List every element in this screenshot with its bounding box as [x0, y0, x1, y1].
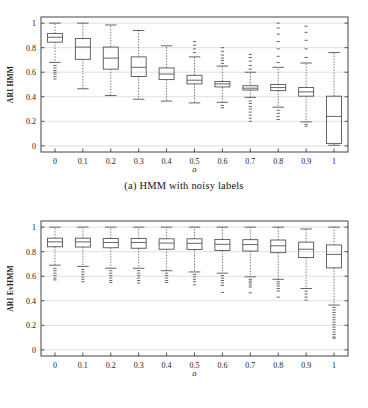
xtick-label: 0.9 [301, 157, 311, 166]
chart-hmm-svg: 00.20.40.60.8100.10.20.30.40.50.60.70.80… [0, 0, 368, 172]
ytick-label: 0.4 [26, 297, 36, 306]
boxplot-item [131, 31, 146, 100]
boxplot-item [215, 227, 230, 292]
xtick-label: 0.7 [245, 361, 255, 370]
box-iqr [75, 38, 90, 59]
plot-evhmm: 00.20.40.60.8100.10.20.30.40.50.60.70.80… [0, 204, 368, 376]
boxplot-item [159, 227, 174, 282]
plot-group: 00.20.40.60.8100.10.20.30.40.50.60.70.80… [6, 221, 348, 376]
xtick-label: 0.8 [273, 361, 283, 370]
box-iqr [131, 238, 146, 248]
caption-hmm: (a) HMM with noisy labels [0, 180, 368, 191]
plot-hmm: 00.20.40.60.8100.10.20.30.40.50.60.70.80… [0, 0, 368, 172]
ytick-label: 0.6 [26, 68, 36, 77]
xaxis-label: ρ [191, 368, 197, 376]
box-iqr [243, 240, 258, 251]
xtick-label: 0.3 [134, 361, 144, 370]
ytick-label: 0 [32, 346, 36, 355]
boxplot-item [47, 227, 62, 280]
box-iqr [187, 239, 202, 250]
boxplot-item [215, 48, 230, 108]
xtick-label: 0.2 [106, 361, 116, 370]
xtick-label: 0.7 [245, 157, 255, 166]
boxplot-item [131, 227, 146, 283]
subfigure-evhmm: 00.20.40.60.8100.10.20.30.40.50.60.70.80… [0, 204, 368, 408]
xtick-label: 0.1 [78, 157, 88, 166]
ytick-label: 0.2 [26, 321, 36, 330]
xtick-label: 0.6 [217, 361, 227, 370]
xtick-label: 0.2 [106, 157, 116, 166]
boxplot-item [299, 26, 314, 126]
ytick-label: 0.2 [26, 117, 36, 126]
ytick-label: 0.4 [26, 93, 36, 102]
box-iqr [47, 238, 62, 247]
xtick-label: 1 [332, 157, 336, 166]
box-iqr [187, 75, 202, 84]
boxplot-item [243, 227, 258, 293]
boxplot-item [103, 227, 118, 282]
boxplot-item [75, 227, 90, 282]
boxplot-item [271, 227, 286, 297]
boxplot-item [47, 23, 62, 79]
ytick-label: 0.8 [26, 248, 36, 257]
boxplot-item [75, 23, 90, 89]
boxplot-item [327, 227, 342, 338]
figure-boxplots: 00.20.40.60.8100.10.20.30.40.50.60.70.80… [0, 0, 368, 408]
boxplot-item [159, 46, 174, 101]
xtick-label: 0.9 [301, 361, 311, 370]
ytick-label: 0.8 [26, 44, 36, 53]
box-iqr [75, 238, 90, 247]
box-iqr [47, 34, 62, 43]
plot-group: 00.20.40.60.8100.10.20.30.40.50.60.70.80… [6, 17, 348, 172]
yaxis-label: ARI HMM [6, 66, 15, 103]
ytick-label: 0 [32, 142, 36, 151]
xtick-label: 0.1 [78, 361, 88, 370]
xtick-label: 0.4 [162, 157, 172, 166]
ytick-label: 1 [32, 223, 36, 232]
boxplot-item [327, 53, 342, 146]
xtick-label: 0 [53, 157, 57, 166]
boxplot-item [103, 25, 118, 96]
boxplot-item [243, 54, 258, 121]
xtick-label: 1 [332, 361, 336, 370]
subfigure-hmm: 00.20.40.60.8100.10.20.30.40.50.60.70.80… [0, 0, 368, 204]
xtick-label: 0.4 [162, 361, 172, 370]
box-iqr [327, 96, 342, 143]
box-iqr [271, 240, 286, 253]
ytick-label: 1 [32, 19, 36, 28]
xtick-label: 0.3 [134, 157, 144, 166]
xtick-label: 0.8 [273, 157, 283, 166]
boxplot-item [271, 23, 286, 119]
box-iqr [131, 57, 146, 77]
xtick-label: 0.6 [217, 157, 227, 166]
box-iqr [327, 245, 342, 268]
box-iqr [103, 238, 118, 247]
boxplot-item [299, 229, 314, 300]
chart-evhmm-svg: 00.20.40.60.8100.10.20.30.40.50.60.70.80… [0, 204, 368, 376]
box-iqr [215, 239, 230, 250]
xtick-label: 0 [53, 361, 57, 370]
xaxis-label: ρ [191, 164, 197, 172]
box-iqr [159, 239, 174, 249]
yaxis-label: ARI EvHMM [6, 265, 15, 312]
ytick-label: 0.6 [26, 272, 36, 281]
box-iqr [299, 242, 314, 257]
